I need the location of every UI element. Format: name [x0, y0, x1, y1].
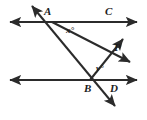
point-label-c: C [105, 6, 112, 17]
angle-label-x: x° [66, 26, 74, 35]
geometry-figure-svg [0, 0, 147, 120]
point-label-a: A [44, 6, 51, 17]
angle-label-y: y° [96, 64, 104, 73]
point-label-d: D [110, 83, 118, 94]
point-label-p: P [114, 42, 121, 53]
point-label-b: B [84, 83, 91, 94]
geometry-diagram: A C B D P x° y° [0, 0, 147, 120]
